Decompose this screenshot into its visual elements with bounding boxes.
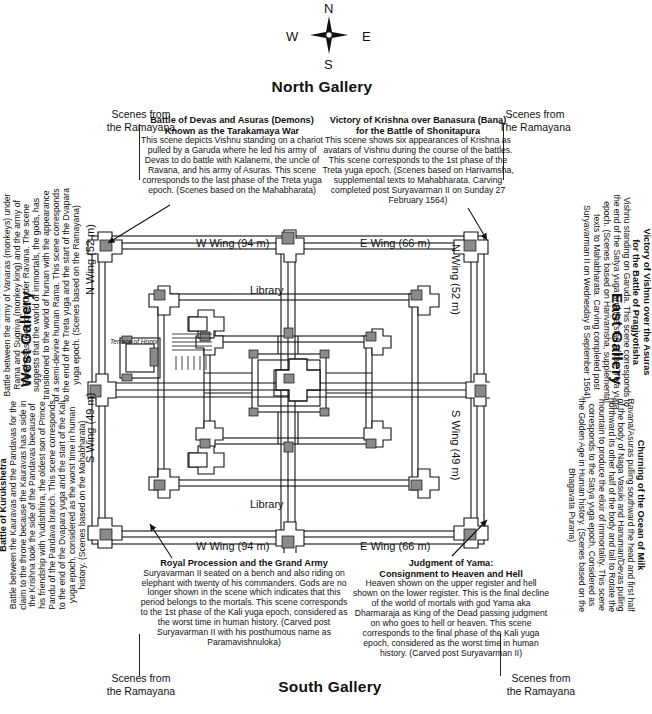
panel-east-bottom: Churning of the Ocean of Milk Ravana/Asu… [546,398,646,613]
panel-south-east-title: Judgment of Yama: Consignment to Heaven … [352,558,550,579]
panel-west-bottom: Battle of Kurukshetra Battle between the… [0,398,98,613]
label-library-top: Library [250,284,284,296]
compass-rose: N S W E [258,2,398,74]
panel-south-east: Judgment of Yama: Consignment to Heaven … [352,558,550,658]
corner-leader-top-left [139,124,140,180]
compass-north-label: N [324,2,333,15]
label-n-wing-left: N Wing (52 m) [84,224,96,295]
panel-south-west-body: Suryavarman II seated on a bench and als… [141,568,348,647]
label-e-wing-bottom: E Wing (66 m) [360,540,430,552]
north-gallery-title: North Gallery [222,78,422,96]
compass-rose-icon [310,16,348,54]
panel-north-east-title: Victory of Krishna over Banasura (Bana) … [318,115,518,136]
label-library-bottom: Library [250,498,284,510]
label-w-wing-top: W Wing (94 m) [196,237,269,249]
angkor-wat-floor-plan [86,228,490,553]
panel-west-top-body: Battle between the army of Vanaras (monk… [1,188,80,402]
panel-north-west: Battle of Devas and Asuras (Demons) Know… [141,115,323,196]
panel-west-bottom-body: Battle between the Kauravas and the Pand… [7,400,86,610]
compass-south-label: S [324,58,333,71]
corner-note-bottom-left: Scenes from the Ramayana [94,672,188,697]
panel-north-west-title: Battle of Devas and Asuras (Demons) Know… [141,115,323,136]
panel-east-top: Victory of Vishnu over the Asuras for th… [548,195,652,410]
corner-note-bottom-right: Scenes from the Ramayana [494,672,588,697]
label-s-wing-right: S Wing (49 m) [450,410,462,480]
label-w-wing-bottom: W Wing (94 m) [196,540,269,552]
panel-north-east-body: This scene shows six appearances of Kris… [322,135,513,204]
panel-south-west: Royal Procession and the Grand Army Sury… [140,558,348,648]
panel-east-top-body: Vishnu standing on Garuda. This scene co… [582,195,632,410]
floor-plan-drawing [86,228,490,553]
panel-east-bottom-title: Churning of the Ocean of Milk [635,398,646,613]
panel-south-east-body: Heaven shown on the upper register and h… [353,578,549,657]
label-e-wing-top: E Wing (66 m) [360,237,430,249]
label-s-wing-left: S Wing (49 m) [84,393,96,463]
label-terrace-of-honor: Terrace of Honor [110,338,159,345]
compass-east-label: E [362,30,371,43]
panel-east-top-title: Victory of Vishnu over the Asuras for th… [630,195,651,410]
south-gallery-title: South Gallery [255,678,405,696]
panel-north-west-body: This scene depicts Vishnu standing on a … [141,135,323,195]
panel-west-top: Battle of Lanka Battle between the army … [0,188,92,403]
panel-east-bottom-body: Ravana/Asuras pulling southward the head… [566,398,635,612]
panel-north-east: Victory of Krishna over Banasura (Bana) … [318,115,518,206]
compass-west-label: W [286,30,298,43]
label-n-wing-right: N Wing (52 m) [450,244,462,315]
